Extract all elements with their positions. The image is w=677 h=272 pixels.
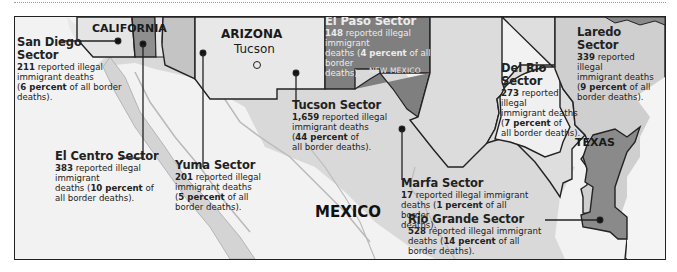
state-label-arizona: ARIZONA [221,27,282,41]
sector-label-rio-grande: Rio Grande Sector 528 reported illegal i… [408,213,543,256]
sector-label-el-centro: El Centro Sector 383 reported illegal im… [55,150,180,203]
sector-name: Rio Grande Sector [408,213,543,226]
sector-label-del-rio: Del Rio Sector 273 reported illegal immi… [501,62,586,138]
tucson-city-marker-icon [253,61,261,69]
sector-name: El Centro Sector [55,150,180,163]
top-dotted-rule [14,2,666,3]
sector-name: San Diego Sector [17,36,127,62]
sector-label-san-diego: San Diego Sector 211 reported illegal im… [17,36,127,102]
sector-name: El Paso Sector [325,16,455,28]
sector-name: Del Rio Sector [501,62,586,88]
sector-name: Yuma Sector [175,159,265,172]
sector-name: Tucson Sector [292,99,392,112]
sector-name: Marfa Sector [401,177,531,190]
sector-label-tucson: Tucson Sector 1,659 reported illegal imm… [292,99,392,152]
sector-name: Laredo Sector [577,26,662,52]
border-sectors-map: CALIFORNIA ARIZONA Tucson NEW MEXICO TEX… [14,16,666,260]
city-label-tucson: Tucson [234,42,275,56]
sector-label-el-paso: El Paso Sector 148 reported illegal immi… [325,16,455,78]
state-label-california: CALIFORNIA [92,22,167,35]
country-label-mexico: MEXICO [315,203,381,221]
sector-label-yuma: Yuma Sector 201 reported illegal immigra… [175,159,265,212]
sector-label-laredo: Laredo Sector 339 reported illegal immig… [577,26,662,102]
